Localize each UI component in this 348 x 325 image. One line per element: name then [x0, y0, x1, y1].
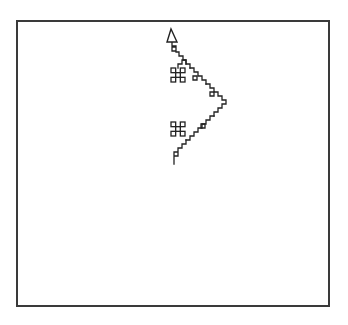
- figure-canvas: [0, 0, 348, 325]
- plot-frame: [17, 21, 329, 306]
